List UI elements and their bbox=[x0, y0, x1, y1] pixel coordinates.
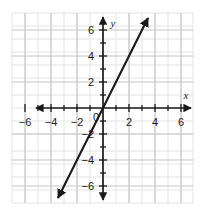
x-tick-label-neg6: −6 bbox=[19, 116, 32, 128]
y-axis-label: y bbox=[110, 17, 116, 29]
x-tick-label-neg2: −2 bbox=[71, 116, 84, 128]
x-tick-label-neg4: −4 bbox=[45, 116, 58, 128]
x-axis-label: x bbox=[183, 89, 189, 101]
y-tick-label-neg6: −6 bbox=[81, 180, 94, 192]
y-tick-label-6: 6 bbox=[88, 24, 94, 36]
x-tick-label-4: 4 bbox=[152, 116, 158, 128]
coordinate-plane-graph: −6 −4 −2 2 4 6 6 4 2 −2 −4 −6 0 x y bbox=[0, 0, 205, 215]
y-tick-label-4: 4 bbox=[88, 50, 94, 62]
x-tick-label-6: 6 bbox=[178, 116, 184, 128]
x-tick-label-2: 2 bbox=[126, 116, 132, 128]
y-tick-label-neg2: −2 bbox=[81, 128, 94, 140]
graph-canvas: −6 −4 −2 2 4 6 6 4 2 −2 −4 −6 0 x y bbox=[0, 0, 205, 215]
y-tick-label-2: 2 bbox=[88, 76, 94, 88]
origin-label: 0 bbox=[93, 111, 99, 123]
y-tick-label-neg4: −4 bbox=[81, 154, 94, 166]
